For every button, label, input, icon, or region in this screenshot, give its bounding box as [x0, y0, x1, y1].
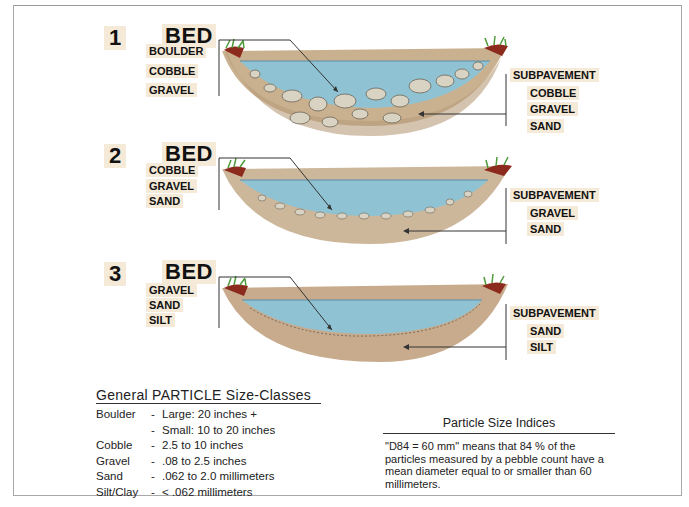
bed-material: BOULDER	[146, 44, 206, 58]
particle-size-indices: Particle Size Indices "D84 = 60 mm" mean…	[383, 415, 615, 490]
panel-number: 3	[104, 262, 126, 286]
dash: -	[144, 423, 162, 439]
dash: -	[144, 438, 162, 454]
dash: -	[144, 454, 162, 470]
subpavement-material: SAND	[527, 324, 564, 338]
class-range: .062 to 2.0 millimeters	[162, 469, 275, 485]
class-name	[96, 423, 144, 439]
size-class-row: Silt/Clay-< .062 millimeters	[96, 485, 321, 501]
class-name: Sand	[96, 469, 144, 485]
class-name: Silt/Clay	[96, 485, 144, 501]
dash: -	[144, 407, 162, 423]
subpavement-material: COBBLE	[527, 86, 579, 100]
class-range: < .062 millimeters	[162, 485, 252, 501]
dash: -	[144, 469, 162, 485]
bed-material: GRAVEL	[146, 83, 197, 97]
bed-material: COBBLE	[146, 64, 198, 78]
bed-material: SAND	[146, 194, 183, 208]
size-class-row: Sand-.062 to 2.0 millimeters	[96, 469, 321, 485]
dash: -	[144, 485, 162, 501]
subpavement-material: GRAVEL	[527, 206, 578, 220]
size-class-row: -Small: 10 to 20 inches	[96, 423, 321, 439]
size-class-row: Boulder-Large: 20 inches +	[96, 407, 321, 423]
panel-1: 1 BED BOULDER COBBLE GRAVEL SUBPAVEMENT …	[0, 26, 689, 151]
size-class-row: Gravel-.08 to 2.5 inches	[96, 454, 321, 470]
indices-title: Particle Size Indices	[383, 415, 615, 434]
class-range: .08 to 2.5 inches	[162, 454, 246, 470]
panel-3: 3 BED GRAVEL SAND SILT SUBPAVEMENT SAND …	[0, 262, 689, 387]
subpavement-material: SAND	[527, 222, 564, 236]
size-classes-title: General PARTICLE Size-Classes	[96, 387, 321, 404]
subpavement-title: SUBPAVEMENT	[510, 68, 599, 82]
class-name: Cobble	[96, 438, 144, 454]
subpavement-material: SAND	[527, 119, 564, 133]
panel-number: 2	[104, 144, 126, 168]
class-name: Gravel	[96, 454, 144, 470]
bed-material: SILT	[146, 313, 175, 327]
size-classes-legend: General PARTICLE Size-Classes Boulder-La…	[96, 387, 321, 500]
bed-material: COBBLE	[146, 163, 198, 177]
panel-2: 2 BED COBBLE GRAVEL SAND SUBPAVEMENT GRA…	[0, 144, 689, 269]
class-range: Large: 20 inches +	[162, 407, 257, 423]
subpavement-title: SUBPAVEMENT	[510, 188, 599, 202]
subpavement-title: SUBPAVEMENT	[510, 306, 599, 320]
bed-title: BED	[162, 260, 216, 284]
panel-number: 1	[104, 26, 126, 50]
class-range: 2.5 to 10 inches	[162, 438, 243, 454]
subpavement-material: SILT	[527, 340, 556, 354]
bed-material: GRAVEL	[146, 283, 197, 297]
bed-material: SAND	[146, 298, 183, 312]
size-class-row: Cobble-2.5 to 10 inches	[96, 438, 321, 454]
class-range: Small: 10 to 20 inches	[162, 423, 275, 439]
bed-material: GRAVEL	[146, 179, 197, 193]
class-name: Boulder	[96, 407, 144, 423]
indices-description: "D84 = 60 mm" means that 84 % of the par…	[383, 440, 615, 490]
subpavement-material: GRAVEL	[527, 102, 578, 116]
